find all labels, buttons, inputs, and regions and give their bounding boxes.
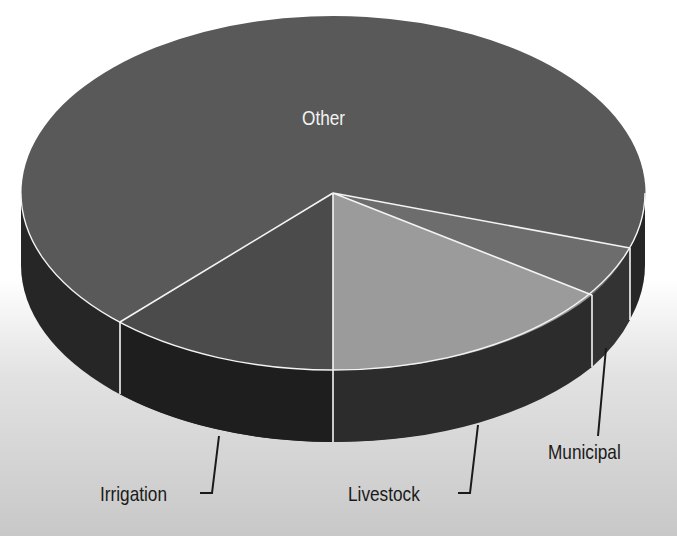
label-other: Other bbox=[302, 106, 345, 130]
label-irrigation: Irrigation bbox=[100, 482, 167, 506]
label-municipal: Municipal bbox=[548, 440, 621, 464]
label-livestock: Livestock bbox=[348, 482, 420, 506]
